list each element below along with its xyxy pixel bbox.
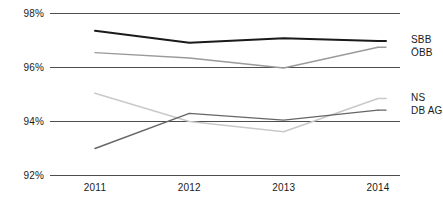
series-line-sbb xyxy=(95,31,378,43)
x-axis-tick-label-2014: 2014 xyxy=(348,182,408,193)
x-axis-tick-label-2012: 2012 xyxy=(159,182,219,193)
legend-leader-lines-group xyxy=(378,41,386,110)
y-axis-tick-label-98: 98% xyxy=(4,8,44,19)
x-axis-tick-label-2011: 2011 xyxy=(65,182,125,193)
series-line-ns xyxy=(95,93,378,132)
gridlines-group xyxy=(50,14,400,176)
x-axis-tick-label-2013: 2013 xyxy=(254,182,314,193)
y-axis-tick-label-96: 96% xyxy=(4,62,44,73)
series-label-ns: NS xyxy=(411,92,425,103)
y-axis-tick-label-92: 92% xyxy=(4,170,44,181)
series-lines-group xyxy=(95,31,378,149)
series-label-sbb: SBB xyxy=(411,34,432,45)
series-line-db-ag xyxy=(95,110,378,148)
series-label-obb: ÖBB xyxy=(411,47,433,58)
y-axis-tick-label-94: 94% xyxy=(4,116,44,127)
series-line-bb xyxy=(95,47,378,68)
series-label-db-ag: DB AG xyxy=(411,105,443,116)
